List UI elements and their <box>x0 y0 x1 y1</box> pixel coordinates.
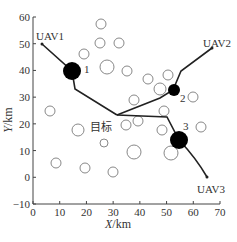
uav1-label: UAV1 <box>36 30 64 42</box>
x-tick-label: 10 <box>54 206 66 218</box>
uav2-label: UAV2 <box>203 37 231 49</box>
y-tick-label: 50 <box>19 38 31 50</box>
y-tick-label: 60 <box>19 11 31 23</box>
threat-1-label: 1 <box>84 63 90 75</box>
x-tick-label: 50 <box>161 206 173 218</box>
y-tick-label: 40 <box>19 64 31 76</box>
y-tick-label: 30 <box>19 91 31 103</box>
x-axis-title: X/km <box>104 217 132 231</box>
uav3-label: UAV3 <box>197 183 225 195</box>
threat-2-label: 2 <box>180 92 186 104</box>
y-tick-label: −10 <box>13 198 31 210</box>
threat-2 <box>168 84 180 96</box>
y-axis-title: Y/km <box>1 107 15 133</box>
x-tick-label: 40 <box>134 206 146 218</box>
threat-1 <box>63 62 81 80</box>
threat-3 <box>170 131 188 149</box>
x-tick-label: 0 <box>30 206 36 218</box>
x-tick-label: 60 <box>188 206 200 218</box>
target-label: 目标 <box>90 120 112 133</box>
threat-3-label: 3 <box>183 120 189 132</box>
y-tick-label: 0 <box>25 171 31 183</box>
uav2-path <box>117 48 212 115</box>
uav-path-diagram: −100102030405060 010203040506070 X/km Y/… <box>0 0 237 242</box>
threat-circles <box>63 62 188 149</box>
y-tick-labels: −100102030405060 <box>13 11 31 210</box>
x-tick-label: 70 <box>215 206 227 218</box>
y-tick-label: 20 <box>19 118 31 130</box>
x-tick-label: 20 <box>81 206 93 218</box>
y-tick-label: 10 <box>19 145 31 157</box>
